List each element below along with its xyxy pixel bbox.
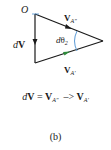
- va-double-prime-label: VA″: [64, 14, 77, 24]
- equation: dV = VA″ –> VA′: [0, 91, 111, 103]
- angle-sub: 2: [65, 40, 68, 46]
- dv-arrowhead-icon: [33, 39, 38, 45]
- va-double-prime-sub: A″: [71, 18, 77, 24]
- dv-label-v: V: [18, 39, 25, 50]
- dv-label: dV: [13, 40, 25, 50]
- eq-term2-sub: A′: [84, 97, 89, 103]
- va-prime-label: VA′: [64, 66, 75, 76]
- origin-label: O: [21, 5, 28, 15]
- eq-equals: =: [34, 91, 45, 102]
- va-prime-sub: A′: [71, 70, 76, 76]
- angle-label: dθ2: [56, 36, 68, 46]
- eq-operator: –>: [58, 91, 76, 102]
- va-prime-arrowhead-icon: [63, 52, 70, 56]
- va-double-prime-arrowhead-icon: [65, 24, 72, 29]
- vector-triangle-diagram: O dV VA″ VA′ dθ2: [0, 0, 111, 80]
- figure-caption: (b): [0, 131, 111, 142]
- eq-term2-v: V: [77, 91, 84, 102]
- angle-arc-icon: [75, 31, 78, 51]
